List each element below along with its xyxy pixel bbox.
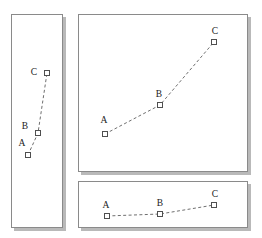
data-point-marker[interactable] <box>105 214 110 219</box>
panel-border-tall <box>12 15 63 228</box>
data-point-marker[interactable] <box>103 132 108 137</box>
data-point-label: A <box>101 115 108 125</box>
panel-large-square[interactable]: ABC <box>79 15 248 172</box>
figure-container: ABC ABC ABC <box>0 0 262 238</box>
data-point-label: C <box>212 189 218 199</box>
data-point-label: A <box>103 200 110 210</box>
data-point-label: B <box>157 198 163 208</box>
data-point-label: A <box>19 138 26 148</box>
data-point-marker[interactable] <box>212 40 217 45</box>
data-point-marker[interactable] <box>36 131 41 136</box>
panel-wide-short[interactable]: ABC <box>79 182 248 228</box>
data-point-marker[interactable] <box>158 103 163 108</box>
data-point-label: C <box>212 26 218 36</box>
data-point-marker[interactable] <box>26 153 31 158</box>
data-point-label: B <box>22 121 28 131</box>
multi-panel-line-chart: ABC ABC ABC <box>0 0 262 238</box>
data-point-marker[interactable] <box>45 71 50 76</box>
data-point-marker[interactable] <box>212 203 217 208</box>
panel-border-large <box>79 15 248 172</box>
data-point-label: C <box>31 67 37 77</box>
data-point-label: B <box>156 89 162 99</box>
panel-tall-narrow[interactable]: ABC <box>12 15 63 228</box>
data-point-marker[interactable] <box>158 212 163 217</box>
